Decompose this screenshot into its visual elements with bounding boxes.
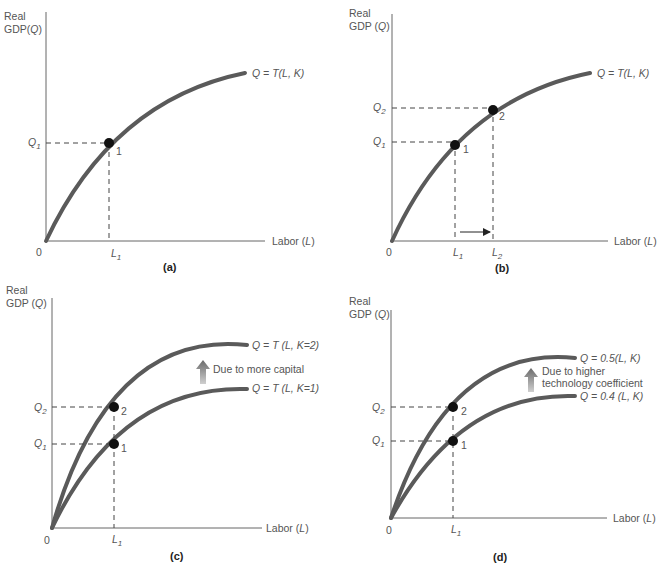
y-axis-label-line1: Real [4, 10, 26, 22]
shift-up-arrow-icon [196, 360, 210, 384]
shift-note-line2: technology coefficient [542, 377, 643, 389]
y-axis-label-line2: GDP (Q) [349, 20, 390, 32]
y-axis-label-line1: Real [349, 7, 371, 19]
point-1-label: 1 [121, 442, 127, 454]
curve-top-label: Q = 0.5(L, K) [580, 352, 640, 364]
y-axis-label-line2: GDP(Q) [4, 23, 42, 35]
q1-label: Q1 [373, 135, 386, 150]
q1-label: Q1 [372, 434, 385, 449]
l1-label: L1 [111, 247, 121, 262]
panel-caption: (c) [170, 550, 184, 562]
y-axis-label-line1: Real [6, 284, 28, 296]
l1-label: L1 [453, 246, 463, 261]
point-1-label: 1 [116, 145, 122, 157]
x-axis-label: Labor (L) [613, 512, 656, 524]
panel-a: Real GDP(Q) Labor (L) 0 Q = T(L, K) 1 Q1… [4, 10, 315, 273]
point-2 [488, 105, 498, 115]
production-curve [392, 73, 590, 241]
point-2 [109, 402, 119, 412]
point-1 [104, 138, 114, 148]
origin-label: 0 [386, 246, 392, 258]
panel-caption: (b) [495, 262, 509, 274]
point-1 [448, 436, 458, 446]
q1-label: Q1 [34, 437, 47, 452]
y-axis-label-line1: Real [349, 295, 371, 307]
x-axis-label: Labor (L) [266, 522, 309, 534]
curve-label: Q = T(L, K) [252, 67, 304, 79]
point-2 [448, 402, 458, 412]
panel-caption: (a) [163, 261, 177, 273]
point-1-label: 1 [463, 143, 469, 155]
origin-label: 0 [386, 524, 392, 536]
l1-label: L1 [451, 523, 461, 538]
curve-label: Q = T(L, K) [597, 67, 649, 79]
shift-note-line1: Due to higher [542, 365, 606, 377]
point-1-label: 1 [461, 439, 467, 451]
x-axis-label: Labor (L) [614, 235, 657, 247]
l1-label: L1 [112, 533, 122, 548]
q2-label: Q2 [34, 401, 47, 416]
curve-bottom-label: Q = 0.4 (L, K) [580, 390, 643, 402]
point-2-label: 2 [499, 110, 505, 122]
curve-bottom-label: Q = T (L, K=1) [252, 382, 319, 394]
production-function-diagram: Real GDP(Q) Labor (L) 0 Q = T(L, K) 1 Q1… [0, 0, 658, 568]
q1-label: Q1 [28, 136, 41, 151]
x-axis-label: Labor (L) [272, 235, 315, 247]
production-curve [46, 73, 245, 241]
l2-label: L2 [492, 246, 503, 261]
panel-d: Real GDP (Q) Labor (L) 0 Q = 0.5(L, K) Q… [349, 295, 656, 563]
origin-label: 0 [44, 534, 50, 546]
panel-c: Real GDP (Q) Labor (L) 0 Q = T (L, K=2) … [6, 284, 319, 562]
y-axis-label-line2: GDP (Q) [6, 297, 47, 309]
panel-caption: (d) [493, 551, 507, 563]
shift-up-arrow-icon [524, 368, 538, 392]
point-1 [109, 439, 119, 449]
origin-label: 0 [36, 246, 42, 258]
y-axis-label-line2: GDP (Q) [349, 308, 390, 320]
curve-top-label: Q = T (L, K=2) [252, 339, 319, 351]
panel-b: Real GDP (Q) Labor (L) 0 Q = T(L, K) 1 2… [349, 7, 657, 274]
production-curve-k1 [52, 389, 247, 528]
q2-label: Q2 [373, 101, 386, 116]
point-1 [450, 140, 460, 150]
point-2-label: 2 [461, 405, 467, 417]
shift-note: Due to more capital [213, 363, 304, 375]
point-2-label: 2 [121, 405, 127, 417]
q2-label: Q2 [372, 401, 385, 416]
production-curve-0.4 [391, 396, 575, 518]
